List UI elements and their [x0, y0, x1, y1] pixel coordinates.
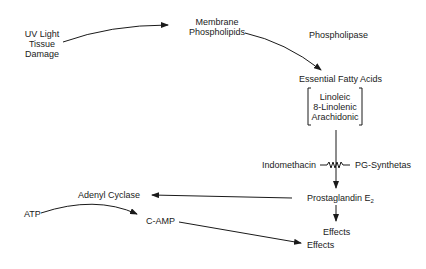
node-atp: ATP — [24, 209, 41, 219]
pathway-arrows — [0, 0, 426, 269]
inhibitor-indomethacin: Indomethacin — [262, 160, 316, 170]
trigger-line1: UV Light — [22, 29, 62, 39]
enzyme-pg-synthetas: PG-Synthetas — [355, 160, 411, 170]
enzyme-phospholipase: Phospholipase — [309, 30, 368, 40]
arrow-trigger-to-membrane — [63, 25, 168, 42]
prostaglandin-subscript: 2 — [371, 198, 374, 204]
trigger-line2: Tissue — [22, 39, 62, 49]
inhibitor-zigzag — [320, 162, 350, 168]
membrane-line1: Membrane — [182, 17, 252, 27]
arrow-camp-to-effects — [179, 222, 301, 243]
node-essential-fatty-acids: Essential Fatty Acids — [299, 74, 382, 84]
node-membrane-phospholipids: Membrane Phospholipids — [182, 17, 252, 37]
trigger-line3: Damage — [22, 49, 62, 59]
efa-arachidonic: Arachidonic — [310, 112, 360, 122]
arrow-atp-to-camp — [41, 204, 137, 214]
arrow-prostaglandin-to-adenyl — [152, 195, 292, 198]
node-effects-2: Effects — [307, 240, 334, 250]
membrane-line2: Phospholipids — [182, 27, 252, 37]
prostaglandin-label: Prostaglandin E — [307, 193, 371, 203]
efa-list: Linoleic 8-Linolenic Arachidonic — [310, 92, 360, 122]
node-c-amp: C-AMP — [146, 216, 175, 226]
node-effects-1: Effects — [323, 227, 350, 237]
node-adenyl-cyclase: Adenyl Cyclase — [78, 190, 140, 200]
efa-linoleic: Linoleic — [310, 92, 360, 102]
node-trigger: UV Light Tissue Damage — [22, 29, 62, 59]
efa-linolenic: 8-Linolenic — [310, 102, 360, 112]
node-prostaglandin-e2: Prostaglandin E2 — [307, 193, 374, 206]
